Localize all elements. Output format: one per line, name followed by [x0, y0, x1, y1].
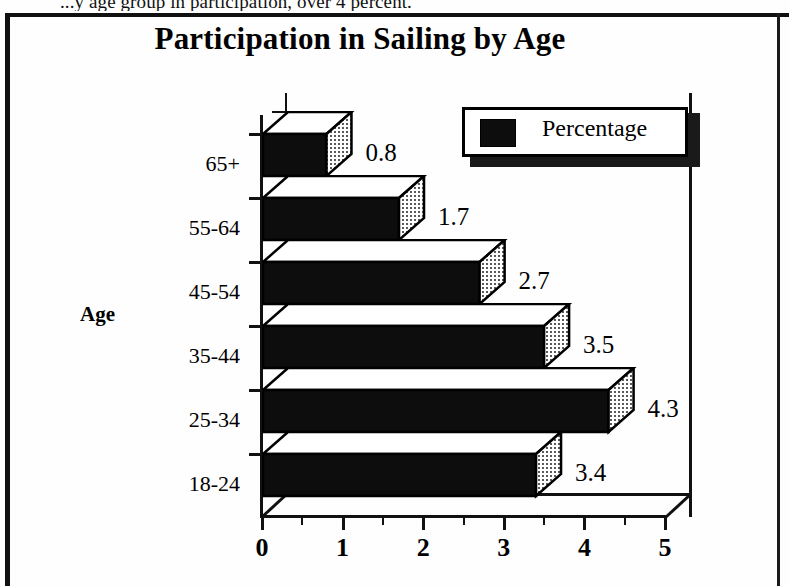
value-label-18-24: 3.4 — [575, 459, 606, 487]
value-label-35-44: 3.5 — [583, 331, 614, 359]
category-label-18-24: 18-24 — [120, 471, 240, 497]
value-label-25-34: 4.3 — [648, 395, 679, 423]
bar-55-64 — [262, 175, 430, 245]
x-tick-label-0: 0 — [247, 533, 277, 563]
x-tick-minor-2.5 — [463, 517, 465, 525]
floor-right-diagonal — [660, 493, 694, 519]
category-label-25-34: 25-34 — [120, 407, 240, 433]
bar-18-24 — [262, 431, 567, 501]
x-tick-5 — [664, 517, 667, 530]
bar-25-34 — [262, 367, 640, 437]
x-tick-0 — [261, 517, 264, 530]
bar-35-44 — [262, 303, 575, 373]
x-tick-label-1: 1 — [328, 533, 358, 563]
x-tick-label-3: 3 — [489, 533, 519, 563]
legend-swatch-percentage — [480, 119, 516, 147]
y-axis-title: Age — [80, 302, 115, 327]
x-tick-minor-1.5 — [382, 517, 384, 525]
scanned-page: ...y age group in participation, over 4 … — [0, 0, 789, 586]
value-label-55-64: 1.7 — [438, 203, 469, 231]
y-tick-3 — [249, 325, 262, 328]
x-tick-3 — [503, 517, 506, 530]
category-label-65plus: 65+ — [120, 151, 240, 177]
x-tick-4 — [583, 517, 586, 530]
y-tick-4 — [249, 389, 262, 392]
x-tick-label-5: 5 — [650, 533, 680, 563]
x-tick-label-4: 4 — [569, 533, 599, 563]
y-tick-5 — [249, 453, 262, 456]
x-tick-minor-0.5 — [301, 517, 303, 525]
category-label-35-44: 35-44 — [120, 343, 240, 369]
plot-area: 0.81.72.73.54.33.4 65+55-6445-5435-4425-… — [10, 17, 777, 586]
x-tick-minor-4.5 — [624, 517, 626, 525]
value-label-65plus: 0.8 — [365, 139, 396, 167]
x-tick-1 — [342, 517, 345, 530]
bar-65plus — [262, 111, 357, 181]
category-label-55-64: 55-64 — [120, 215, 240, 241]
y-tick-1 — [249, 197, 262, 200]
bar-45-54 — [262, 239, 511, 309]
clipped-header-text: ...y age group in participation, over 4 … — [0, 0, 789, 11]
y-tick-0 — [249, 133, 262, 136]
category-label-45-54: 45-54 — [120, 279, 240, 305]
x-tick-label-2: 2 — [408, 533, 438, 563]
bar-chart: Participation in Sailing by Age — [10, 17, 777, 586]
x-tick-2 — [422, 517, 425, 530]
page-border-right — [777, 13, 780, 586]
x-tick-minor-3.5 — [543, 517, 545, 525]
legend: Percentage — [462, 107, 700, 167]
value-label-45-54: 2.7 — [519, 267, 550, 295]
legend-label-percentage: Percentage — [542, 115, 647, 142]
y-tick-2 — [249, 261, 262, 264]
